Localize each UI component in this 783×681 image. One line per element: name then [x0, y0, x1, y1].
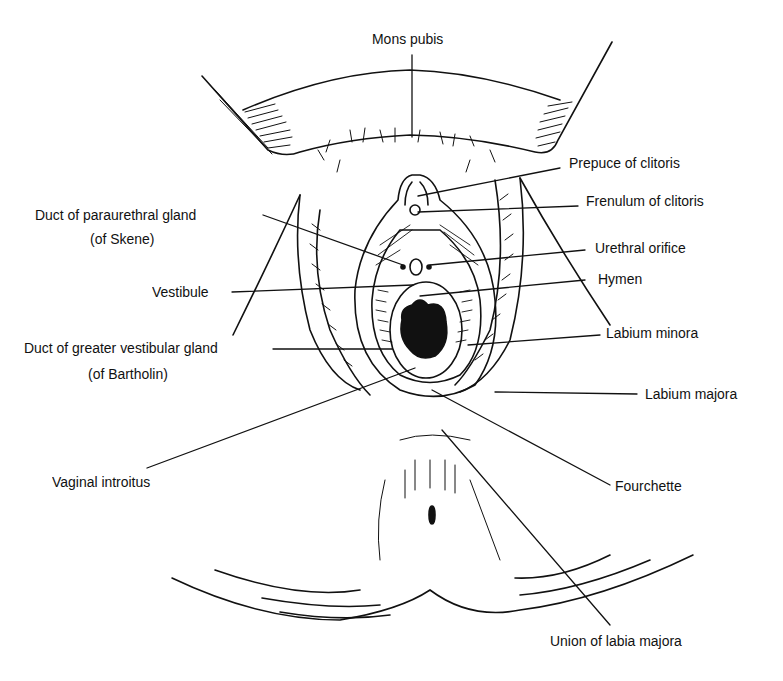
label-vaginal-introitus: Vaginal introitus [52, 473, 150, 491]
label-paraurethral-duct: Duct of paraurethral gland [35, 206, 196, 224]
label-bartholin-duct-sub: (of Bartholin) [88, 365, 168, 383]
leader-lines [147, 55, 637, 625]
label-prepuce-of-clitoris: Prepuce of clitoris [569, 154, 680, 172]
label-fourchette: Fourchette [615, 477, 682, 495]
perineum-drawing [172, 435, 693, 620]
labia-majora-drawing [233, 178, 610, 395]
label-labium-minora: Labium minora [606, 324, 698, 342]
mons-pubis-drawing [202, 42, 612, 172]
label-frenulum-of-clitoris: Frenulum of clitoris [586, 192, 704, 210]
label-paraurethral-duct-sub: (of Skene) [90, 230, 154, 248]
label-union-of-labia-majora: Union of labia majora [550, 632, 682, 650]
label-mons-pubis: Mons pubis [372, 30, 443, 48]
label-vestibule: Vestibule [152, 283, 209, 301]
label-hymen: Hymen [598, 270, 642, 288]
label-urethral-orifice: Urethral orifice [595, 239, 686, 257]
label-labium-majora: Labium majora [645, 385, 737, 403]
vulva-drawing [355, 175, 496, 396]
label-bartholin-duct: Duct of greater vestibular gland [24, 339, 218, 357]
